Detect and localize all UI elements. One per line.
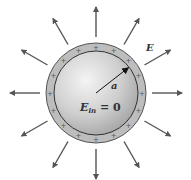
- field-arrow: [53, 141, 68, 167]
- interior-field-label: Ein = 0: [79, 101, 121, 115]
- plus-charge: +: [51, 72, 57, 80]
- interior-field-subscript: in: [88, 106, 96, 115]
- sphere-diagram: ++++++++++++++++ a E Ein = 0: [0, 0, 191, 180]
- interior-field-value: = 0: [96, 101, 121, 114]
- plus-charge: +: [47, 90, 53, 98]
- plus-charge: +: [61, 122, 67, 130]
- plus-charge: +: [136, 72, 142, 80]
- plus-charge: +: [93, 44, 99, 52]
- field-arrow: [22, 121, 48, 136]
- plus-charge: +: [111, 132, 117, 140]
- field-arrow: [22, 50, 48, 65]
- plus-charge: +: [126, 122, 132, 130]
- radius-label: a: [111, 80, 117, 91]
- field-arrow: [124, 19, 139, 45]
- field-label: E: [145, 42, 154, 53]
- plus-charge: +: [51, 107, 57, 115]
- plus-charge: +: [139, 90, 145, 98]
- plus-charge: +: [93, 136, 99, 144]
- plus-charge: +: [61, 57, 67, 65]
- plus-charge: +: [75, 47, 81, 55]
- field-arrow: [53, 19, 68, 45]
- diagram: ++++++++++++++++ a E Ein = 0: [0, 0, 191, 180]
- field-arrow: [144, 121, 170, 136]
- plus-charge: +: [111, 47, 117, 55]
- field-arrow: [124, 141, 139, 167]
- plus-charge: +: [75, 132, 81, 140]
- plus-charge: +: [126, 57, 132, 65]
- plus-charge: +: [136, 107, 142, 115]
